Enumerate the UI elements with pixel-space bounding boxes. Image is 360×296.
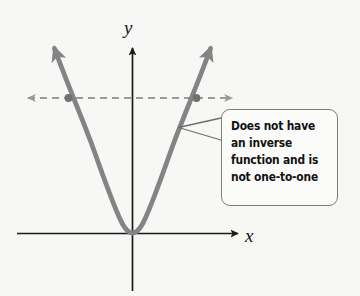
callout-text: Does not have an inverse function and is… bbox=[231, 118, 324, 186]
intersection-point-right bbox=[193, 94, 201, 102]
intersection-point-left bbox=[65, 94, 73, 102]
figure-canvas: y x Does not have an inverse function an… bbox=[0, 0, 360, 296]
y-axis-label: y bbox=[124, 18, 132, 37]
callout-leader-line bbox=[179, 118, 222, 140]
x-axis-label: x bbox=[245, 226, 253, 245]
callout-box: Does not have an inverse function and is… bbox=[221, 109, 338, 206]
